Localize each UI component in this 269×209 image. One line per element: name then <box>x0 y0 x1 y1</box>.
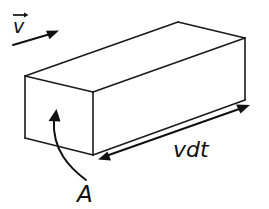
velocity-label-group: v <box>13 13 29 37</box>
figure-container: v vdt A <box>0 0 269 209</box>
volume-swept-diagram: v vdt A <box>0 0 269 209</box>
velocity-arrow-head <box>46 31 59 40</box>
prism-group <box>25 22 245 155</box>
area-label: A <box>75 181 93 207</box>
velocity-label: v <box>13 15 25 37</box>
velocity-overbar-arrow-head <box>24 13 29 18</box>
length-label: vdt <box>173 137 210 162</box>
